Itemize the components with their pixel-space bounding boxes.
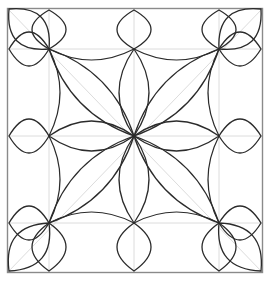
quilting-pattern-canvas [0,0,271,281]
